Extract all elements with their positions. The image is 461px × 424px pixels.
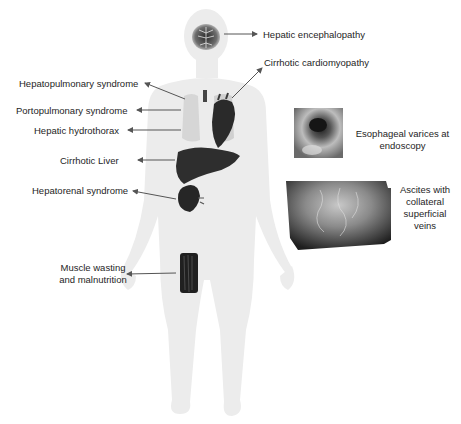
cirrhosis-complications-diagram: Hepatic encephalopathy Cirrhotic cardiom… xyxy=(0,0,461,424)
label-hepatopulmonary-syndrome: Hepatopulmonary syndrome xyxy=(19,78,138,90)
label-esophageal-varices: Esophageal varices at endoscopy xyxy=(350,128,455,152)
label-hepatic-encephalopathy: Hepatic encephalopathy xyxy=(263,29,365,41)
abdomen-veins-image xyxy=(286,181,391,250)
label-portopulmonary-syndrome: Portopulmonary syndrome xyxy=(16,105,127,117)
label-muscle-wasting-line2: and malnutrition xyxy=(58,274,128,286)
brain-icon xyxy=(192,24,220,50)
label-muscle-wasting-line1: Muscle wasting xyxy=(58,262,128,274)
endoscopy-image xyxy=(294,108,343,158)
label-ascites-line3: superficial xyxy=(394,208,456,220)
label-esophageal-varices-line2: endoscopy xyxy=(350,140,455,152)
diagram-canvas xyxy=(0,0,461,424)
label-muscle-wasting: Muscle wasting and malnutrition xyxy=(58,262,128,286)
label-cirrhotic-liver: Cirrhotic Liver xyxy=(60,155,119,167)
label-hepatorenal-syndrome: Hepatorenal syndrome xyxy=(32,185,128,197)
label-ascites: Ascites with collateral superficial vein… xyxy=(394,184,456,232)
label-hepatic-hydrothorax: Hepatic hydrothorax xyxy=(34,125,119,137)
thigh-muscle-icon xyxy=(180,253,198,293)
body-silhouette xyxy=(121,9,294,416)
label-ascites-line4: veins xyxy=(394,220,456,232)
label-ascites-line2: collateral xyxy=(394,196,456,208)
label-cirrhotic-cardiomyopathy: Cirrhotic cardiomyopathy xyxy=(264,57,369,69)
label-esophageal-varices-line1: Esophageal varices at xyxy=(350,128,455,140)
label-ascites-line1: Ascites with xyxy=(394,184,456,196)
